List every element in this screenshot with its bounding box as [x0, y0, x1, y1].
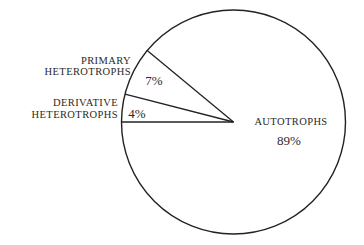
derivative-label-line2: HETEROTROPHS [32, 109, 118, 120]
autotrophs-percent: 89% [277, 133, 301, 148]
primary-label-line1: PRIMARY [81, 55, 131, 66]
primary-percent: 7% [145, 73, 163, 88]
autotrophs-label: AUTOTROPHS [254, 116, 327, 127]
pie-chart: PRIMARY HETEROTROPHS 7% DERIVATIVE HETER… [0, 0, 364, 245]
derivative-percent: 4% [128, 106, 146, 121]
primary-label-line2: HETEROTROPHS [45, 66, 131, 77]
derivative-label-line1: DERIVATIVE [53, 97, 118, 108]
